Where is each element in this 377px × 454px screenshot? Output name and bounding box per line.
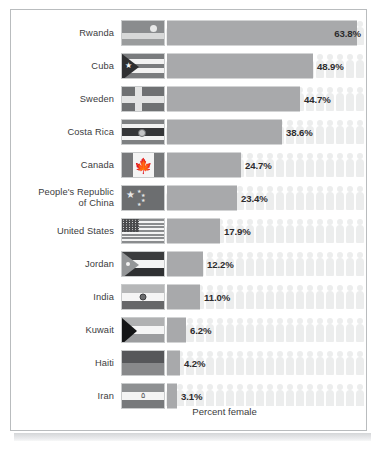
category-label-haiti: Haiti	[11, 358, 114, 369]
category-label-canada: Canada	[11, 160, 114, 171]
table-row: Costa Rica 38.6%	[11, 116, 366, 148]
category-label-iran: Iran	[11, 391, 114, 402]
flag-costa-rica	[121, 119, 165, 145]
bar-value-india: 11.0%	[204, 292, 230, 303]
plot-area: Rwanda 63.8% Cuba	[11, 10, 366, 430]
table-row: India 11.0%	[11, 281, 366, 313]
category-label-costa-rica: Costa Rica	[11, 127, 114, 138]
table-row: Canada 🍁 24.7%	[11, 149, 366, 181]
figure-shadow	[14, 433, 371, 441]
bar-canada	[167, 153, 241, 178]
flag-kuwait	[121, 317, 165, 343]
bar-value-cuba: 48.9%	[317, 61, 344, 72]
category-label-kuwait: Kuwait	[11, 325, 114, 336]
bar-value-costa-rica: 38.6%	[286, 127, 313, 138]
bar-china	[167, 186, 237, 211]
bar-cuba	[167, 54, 313, 79]
bar-sweden	[167, 87, 300, 112]
flag-haiti	[121, 350, 165, 376]
bar-value-united-states: 17.9%	[224, 226, 251, 237]
category-label-jordan: Jordan	[11, 259, 114, 270]
axis-caption: Percent female	[11, 406, 366, 417]
flag-stripe	[122, 239, 164, 241]
bar-india	[167, 285, 200, 310]
flag-canada: 🍁	[121, 152, 165, 178]
category-label-china-line2: of China	[79, 198, 114, 208]
bar-value-kuwait: 6.2%	[190, 325, 211, 336]
category-label-sweden: Sweden	[11, 94, 114, 105]
table-row: Cuba ★ 48.9%	[11, 50, 366, 82]
table-row: Sweden 44.7%	[11, 83, 366, 115]
table-row: People's Republic of China ★ ★★ ★★ 23.4%	[11, 182, 366, 214]
bar-value-china: 23.4%	[241, 193, 268, 204]
category-label-rwanda: Rwanda	[11, 28, 114, 39]
bar-rows: Rwanda 63.8% Cuba	[11, 10, 366, 430]
category-label-cuba: Cuba	[11, 61, 114, 72]
table-row: Haiti 4.2%	[11, 347, 366, 379]
category-label-united-states: United States	[11, 226, 114, 237]
flag-china: ★ ★★ ★★	[121, 185, 165, 211]
flag-stripe	[122, 232, 164, 234]
flag-sweden	[121, 86, 165, 112]
flag-stripe	[122, 237, 164, 239]
bar-value-sweden: 44.7%	[304, 94, 331, 105]
bar-value-rwanda: 63.8%	[334, 28, 361, 39]
flag-jordan	[121, 251, 165, 277]
bar-value-haiti: 4.2%	[184, 358, 205, 369]
flag-cuba: ★	[121, 53, 165, 79]
bar-value-iran: 3.1%	[181, 391, 202, 402]
table-row: Rwanda 63.8%	[11, 17, 366, 49]
bar-rwanda	[167, 21, 357, 46]
table-row: Jordan 12.2%	[11, 248, 366, 280]
bar-costa-rica	[167, 120, 282, 145]
flag-rwanda	[121, 20, 165, 46]
flag-india	[121, 284, 165, 310]
bar-haiti	[167, 351, 180, 376]
category-label-china-line1: People's Republic	[38, 187, 114, 197]
flag-stripe	[122, 234, 164, 236]
bar-jordan	[167, 252, 203, 277]
flag-stripe	[122, 241, 164, 243]
table-row: Kuwait 6.2%	[11, 314, 366, 346]
flag-united-states	[121, 218, 165, 244]
bar-value-jordan: 12.2%	[207, 259, 234, 270]
bar-united-states	[167, 219, 220, 244]
category-label-china: People's Republic of China	[11, 187, 114, 209]
bar-iran	[167, 384, 177, 409]
category-label-india: India	[11, 292, 114, 303]
chart-frame: Rwanda 63.8% Cuba	[10, 9, 367, 431]
flag-stripe	[122, 236, 164, 238]
bar-kuwait	[167, 318, 186, 343]
table-row: United States 17.9%	[11, 215, 366, 247]
bar-value-canada: 24.7%	[245, 160, 272, 171]
